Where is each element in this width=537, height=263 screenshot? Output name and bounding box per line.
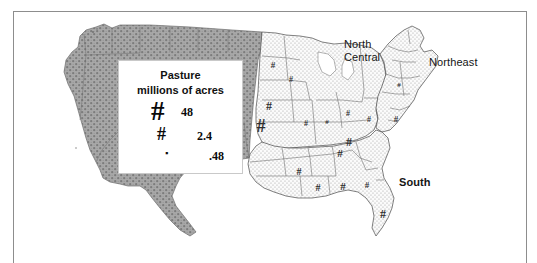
region-label-south: South <box>399 176 431 189</box>
legend-entry: # 48 <box>119 102 242 124</box>
legend-value-small: .48 <box>209 150 224 162</box>
legend-symbol-small: ▪ <box>165 149 168 158</box>
region-label-northeast: Northeast <box>429 56 478 69</box>
svg-text:#: # <box>365 180 370 190</box>
legend-value-large: 48 <box>181 106 193 118</box>
svg-text:#: # <box>297 166 302 177</box>
region-label-north-central: NorthCentral <box>344 38 380 63</box>
legend-value-medium: 2.4 <box>197 130 212 142</box>
legend-title-line2: millions of acres <box>119 83 242 98</box>
legend-symbol-medium: # <box>157 125 166 143</box>
legend-entries: # 48 # 2.4 ▪ .48 <box>119 102 242 164</box>
svg-text:#: # <box>337 147 343 159</box>
region-label-north-central-line1: North <box>344 38 371 50</box>
legend-symbol-large: # <box>151 98 165 125</box>
svg-text:#: # <box>367 115 371 124</box>
legend-entry: ▪ .48 <box>119 148 242 170</box>
svg-text:#: # <box>266 99 272 113</box>
us-pasture-map: # # # # # # # # # # # # # # # # # <box>0 0 537 263</box>
svg-text:#: # <box>325 118 329 126</box>
svg-text:#: # <box>289 75 293 84</box>
legend-title: Pasture millions of acres <box>119 61 242 98</box>
region-label-north-central-line2: Central <box>344 51 380 63</box>
svg-text:#: # <box>271 60 276 70</box>
svg-text:#: # <box>304 119 308 128</box>
svg-text:#: # <box>394 114 399 124</box>
figure-root: # # # # # # # # # # # # # # # # # NorthC… <box>0 0 537 263</box>
svg-text:#: # <box>346 135 352 149</box>
map-legend: Pasture millions of acres # 48 # 2.4 ▪ .… <box>118 60 243 174</box>
legend-entry: # 2.4 <box>119 126 242 148</box>
svg-text:#: # <box>257 116 266 136</box>
svg-text:#: # <box>346 109 350 118</box>
svg-text:#: # <box>397 81 401 89</box>
legend-title-line1: Pasture <box>119 68 242 83</box>
svg-text:#: # <box>340 180 346 192</box>
svg-text:#: # <box>380 207 386 221</box>
svg-text:#: # <box>316 182 321 193</box>
region-northeast <box>376 26 438 132</box>
